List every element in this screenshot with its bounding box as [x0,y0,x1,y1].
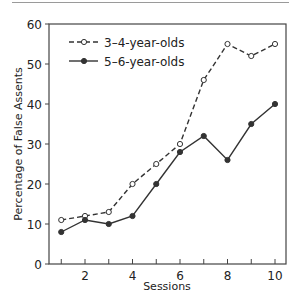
legend-label: 3–4-year-olds [104,36,185,50]
open-circle-marker [130,181,135,186]
y-tick-label: 40 [27,98,42,112]
filled-circle-marker [82,217,87,222]
y-tick-label: 30 [27,138,42,152]
x-tick-label: 2 [81,269,89,283]
filled-circle-marker [59,229,64,234]
filled-circle-marker [154,181,159,186]
open-circle-marker [106,209,111,214]
y-axis-label: Percentage of False Assents [12,67,25,221]
y-tick-label: 50 [27,58,42,72]
filled-circle-marker [177,149,182,154]
legend: 3–4-year-olds5–6-year-olds [69,36,185,69]
x-axis-label: Sessions [143,280,191,293]
legend-open-circle-icon [81,39,86,44]
open-circle-marker [225,41,230,46]
caption-blur [10,300,290,304]
filled-circle-marker [130,213,135,218]
open-circle-marker [272,41,277,46]
legend-label: 5–6-year-olds [104,55,185,69]
legend-filled-circle-icon [81,58,86,63]
series-line-3-4-year-olds [61,44,275,220]
series-layer [59,41,278,234]
open-circle-marker [177,141,182,146]
x-tick-label: 8 [224,269,232,283]
filled-circle-marker [272,101,277,106]
line-chart: 0102030405060246810 3–4-year-olds5–6-yea… [0,0,299,307]
y-tick-label: 20 [27,178,42,192]
filled-circle-marker [201,133,206,138]
series-line-5-6-year-olds [61,104,275,232]
y-tick-label: 0 [34,258,42,272]
y-tick-label: 60 [27,18,42,32]
x-tick-label: 10 [267,269,282,283]
filled-circle-marker [106,221,111,226]
x-tick-label: 4 [129,269,137,283]
filled-circle-marker [225,157,230,162]
y-tick-label: 10 [27,218,42,232]
open-circle-marker [154,161,159,166]
filled-circle-marker [249,121,254,126]
open-circle-marker [59,217,64,222]
open-circle-marker [201,77,206,82]
open-circle-marker [249,53,254,58]
